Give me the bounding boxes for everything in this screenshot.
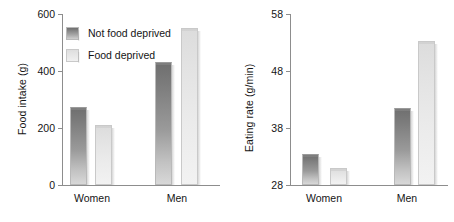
legend-label: Food deprived [88,49,155,62]
bar-body [155,62,172,185]
y-tick-label: 28 [255,179,290,191]
bar-men-not-deprived-left [155,62,172,185]
bar-body [330,168,347,185]
bar-shadow [112,128,115,186]
bar-shadow [347,171,350,186]
bar-body [394,108,411,185]
bar-men-not-deprived-right [394,108,411,185]
bar-cap [71,108,86,110]
x-tick-label-men-left: Men [167,192,187,204]
bar-women-not-deprived-right [302,154,319,185]
legend-swatch-icon [66,27,79,40]
x-axis-line-right [290,185,448,186]
bar-cap [182,29,197,31]
y-axis-line-right [290,14,291,185]
bar-men-deprived-left [181,28,198,185]
bar-cap [303,155,318,157]
x-axis-line-left [62,185,220,186]
bar-men-deprived-right [418,41,435,185]
bar-shadow [172,65,175,186]
bar-body [95,125,112,185]
y-tick-label: 58 [255,8,290,20]
y-axis-line-left [62,14,63,185]
bar-shadow [198,31,201,186]
bar-women-deprived-left [95,125,112,185]
bar-cap [156,63,171,65]
plot-area-right: 28 38 48 58 [290,14,448,185]
y-tick-label: 48 [255,65,290,77]
y-tick-label: 0 [27,179,62,191]
bar-cap [331,169,346,171]
bar-shadow [319,157,322,186]
bar-women-deprived-right [330,168,347,185]
bar-body [181,28,198,185]
bar-women-not-deprived-left [70,107,87,185]
x-tick-label-men-right: Men [397,192,417,204]
bar-body [418,41,435,185]
chart-panel-food-intake: Food intake (g) 0 200 400 600 [0,0,227,222]
x-tick-label-women-left: Women [74,192,110,204]
legend-label: Not food deprived [88,27,171,40]
bar-cap [395,109,410,111]
bar-body [70,107,87,185]
bar-shadow [411,111,414,186]
chart-panel-eating-rate: Eating rate (g/min) 28 38 48 58 [227,0,454,222]
x-tick-label-women-right: Women [306,192,342,204]
bar-shadow [435,44,438,186]
y-tick-label: 400 [27,65,62,77]
bar-cap [419,42,434,44]
bar-body [302,154,319,185]
figure-root: Food intake (g) 0 200 400 600 [0,0,454,222]
y-tick-label: 600 [27,8,62,20]
y-axis-label-right: Eating rate (g/min) [243,64,255,152]
bar-shadow [87,110,90,186]
legend-swatch-icon [66,49,79,62]
y-tick-label: 200 [27,122,62,134]
y-tick-label: 38 [255,122,290,134]
bar-cap [96,126,111,128]
